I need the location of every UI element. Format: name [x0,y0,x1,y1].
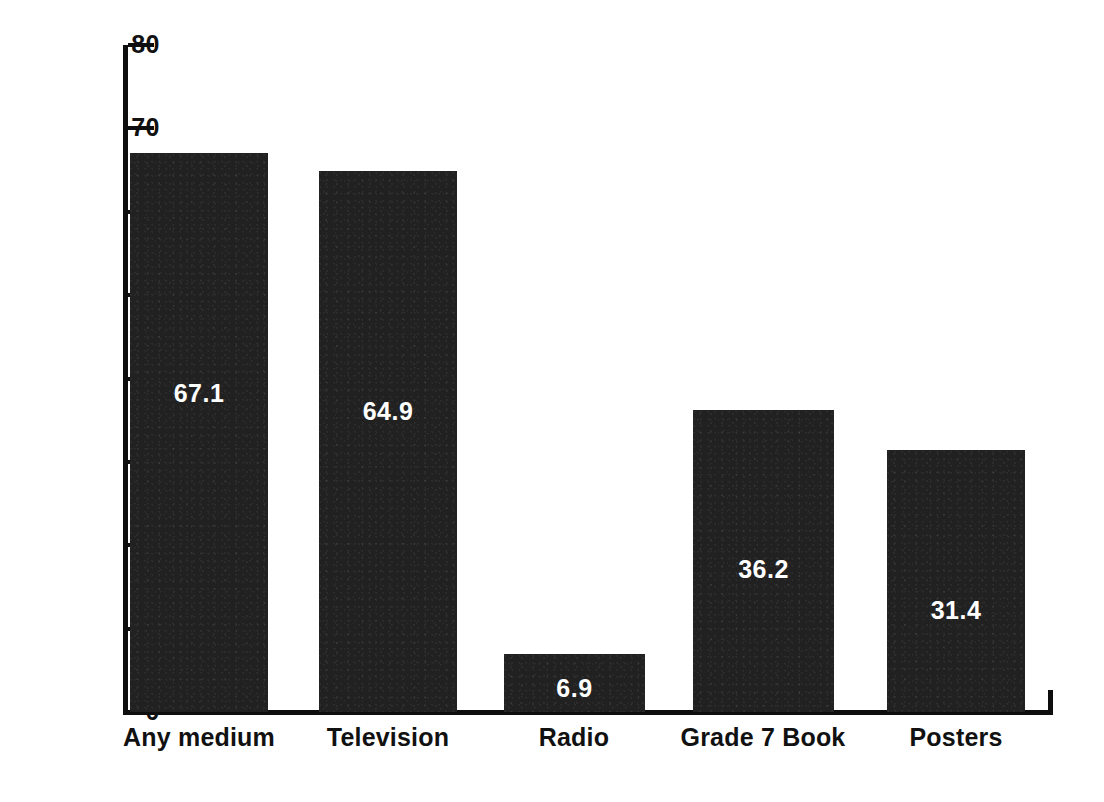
x-axis-end-tick [1048,690,1053,715]
y-tick-mark [128,126,154,130]
bar-value-label: 64.9 [319,399,457,424]
bar-value-label: 31.4 [887,598,1025,623]
bar-value-label: 36.2 [693,557,834,582]
bar-value-label: 67.1 [130,381,268,406]
bar: 31.4 [887,450,1025,712]
bar: 64.9 [319,171,457,712]
bar-value-label: 6.9 [504,676,645,701]
bar-chart: 01020304050607080 67.164.96.936.231.4 An… [0,0,1104,802]
y-tick-mark [128,43,154,47]
bar: 67.1 [130,153,268,712]
bar: 6.9 [504,654,645,712]
category-label: Posters [796,724,1104,752]
bar: 36.2 [693,410,834,712]
